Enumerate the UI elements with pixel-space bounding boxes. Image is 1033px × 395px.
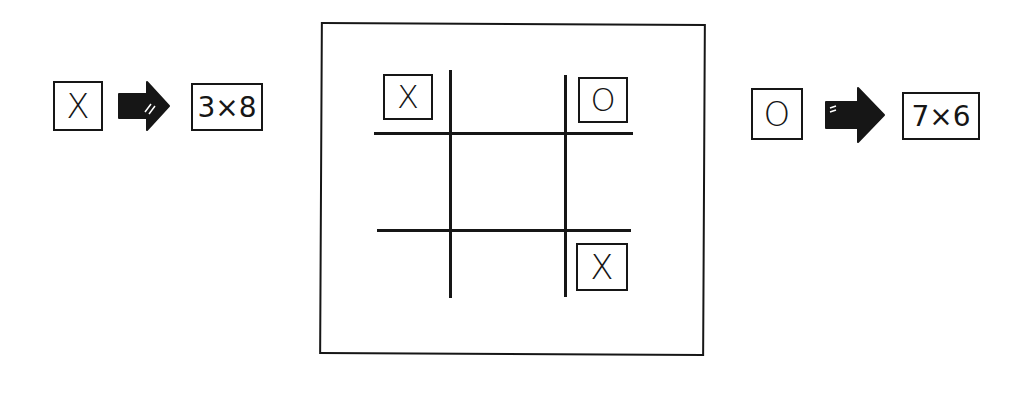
x-mark: X <box>590 250 613 284</box>
legend-o-formula-box: 7×6 <box>902 92 980 140</box>
legend-o-symbol-box: O <box>751 88 803 140</box>
x-mark: X <box>66 89 89 123</box>
grid-line-horizontal-1 <box>374 132 633 135</box>
legend-x-symbol-box: X <box>53 81 103 131</box>
legend-x-formula-box: 3×8 <box>191 83 263 131</box>
board-cell-bottom-right[interactable]: X <box>576 243 628 291</box>
x-formula: 3×8 <box>197 91 256 124</box>
o-mark: O <box>590 84 615 116</box>
board-cell-top-right[interactable]: O <box>578 77 628 123</box>
grid-line-horizontal-2 <box>377 229 631 232</box>
grid-line-vertical-2 <box>564 75 567 297</box>
x-mark: X <box>397 81 419 113</box>
o-mark: O <box>764 97 791 131</box>
o-formula: 7×6 <box>911 100 970 133</box>
board-cell-top-left[interactable]: X <box>383 74 433 120</box>
grid-line-vertical-1 <box>449 70 452 298</box>
right-arrow-icon <box>824 84 886 146</box>
board-frame <box>319 22 706 356</box>
right-arrow-icon <box>117 78 171 134</box>
